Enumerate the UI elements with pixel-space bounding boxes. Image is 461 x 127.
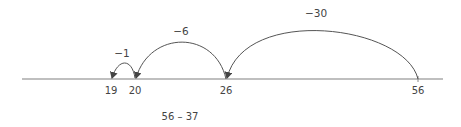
jump-arc-minus-1 bbox=[112, 63, 135, 78]
point-label-56: 56 bbox=[412, 85, 425, 96]
jump-label-minus-30: −30 bbox=[305, 7, 327, 19]
jump-arc-minus-6 bbox=[136, 42, 226, 79]
point-label-20: 20 bbox=[129, 85, 142, 96]
point-label-26: 26 bbox=[220, 85, 233, 96]
jump-label-minus-6: −6 bbox=[173, 25, 189, 37]
point-label-19: 19 bbox=[105, 85, 118, 96]
jump-label-minus-1: −1 bbox=[114, 47, 129, 59]
jump-arc-minus-30 bbox=[227, 31, 418, 79]
expression-label: 56 – 37 bbox=[162, 111, 199, 122]
number-line-diagram: −30 −6 −1 19 20 26 56 56 – 37 bbox=[0, 0, 461, 127]
